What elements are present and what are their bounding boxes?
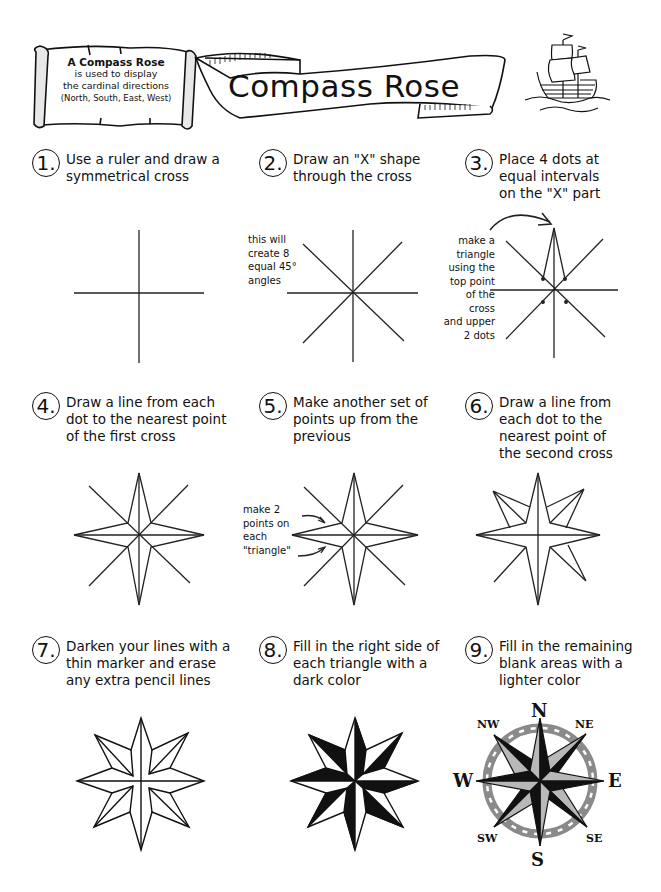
diagram-8-dark-filled-star xyxy=(291,718,418,850)
page-title: Compass Rose xyxy=(228,68,460,104)
step-6-text: Draw a line from each dot to the nearest… xyxy=(499,394,613,462)
step-2-text: Draw an "X" shape through the cross xyxy=(293,151,420,185)
step-8-text: Fill in the right side of each triangle … xyxy=(293,638,439,689)
diagram-6-star-second xyxy=(476,473,600,605)
step-3-text: Place 4 dots at equal intervals on the "… xyxy=(499,151,600,202)
compass-label-se: SE xyxy=(586,832,602,845)
diagram-4-star xyxy=(74,473,204,605)
diagram-9-compass-rose xyxy=(476,718,604,846)
step-number-3: 3. xyxy=(465,149,493,177)
scroll-note-line-3: the cardinal directions xyxy=(48,80,184,92)
diagram-5-star-points xyxy=(292,473,418,605)
diagram-2-x-cross xyxy=(287,230,418,362)
step-number-8: 8. xyxy=(259,636,287,664)
step-5: 5. Make another set of points up from th… xyxy=(259,394,428,445)
sailing-ship-icon xyxy=(525,34,610,112)
step-1: 1. Use a ruler and draw a symmetrical cr… xyxy=(32,151,220,185)
step-3-note: make a triangle using the top point of t… xyxy=(440,234,495,342)
step-6: 6. Draw a line from each dot to the near… xyxy=(465,394,613,462)
step-4-text: Draw a line from each dot to the nearest… xyxy=(66,394,226,445)
step-5-text: Make another set of points up from the p… xyxy=(293,394,428,445)
step-number-7: 7. xyxy=(32,636,60,664)
step-2: 2. Draw an "X" shape through the cross xyxy=(259,151,420,185)
step-9: 9. Fill in the remaining blank areas wit… xyxy=(465,638,633,689)
diagram-1-cross xyxy=(74,230,204,363)
scroll-note-line-2: is used to display xyxy=(48,68,184,80)
diagram-3-dots-triangle xyxy=(490,213,618,358)
step-7: 7. Darken your lines with a thin marker … xyxy=(32,638,230,689)
step-number-4: 4. xyxy=(32,392,60,420)
step-9-text: Fill in the remaining blank areas with a… xyxy=(499,638,633,689)
scroll-note: A Compass Rose is used to display the ca… xyxy=(48,56,184,104)
scroll-note-line-4: (North, South, East, West) xyxy=(48,92,184,104)
scroll-note-line-1: A Compass Rose xyxy=(48,56,184,68)
step-number-6: 6. xyxy=(465,392,493,420)
step-2-note: this will create 8 equal 45° angles xyxy=(248,233,297,287)
step-number-2: 2. xyxy=(259,149,287,177)
compass-label-sw: SW xyxy=(477,832,497,845)
compass-label-n: N xyxy=(531,700,547,721)
step-8: 8. Fill in the right side of each triang… xyxy=(259,638,439,689)
compass-label-e: E xyxy=(608,770,622,791)
step-3: 3. Place 4 dots at equal intervals on th… xyxy=(465,151,600,202)
compass-label-ne: NE xyxy=(575,718,593,731)
step-number-1: 1. xyxy=(32,149,60,177)
step-7-text: Darken your lines with a thin marker and… xyxy=(66,638,230,689)
diagram-7-outline-star xyxy=(77,718,204,850)
step-number-5: 5. xyxy=(259,392,287,420)
compass-label-nw: NW xyxy=(477,718,499,731)
step-number-9: 9. xyxy=(465,636,493,664)
step-5-note: make 2 points on each "triangle" xyxy=(243,503,291,557)
step-4: 4. Draw a line from each dot to the near… xyxy=(32,394,226,445)
compass-label-s: S xyxy=(531,849,544,870)
step-1-text: Use a ruler and draw a symmetrical cross xyxy=(66,151,220,185)
compass-label-w: W xyxy=(453,770,473,791)
